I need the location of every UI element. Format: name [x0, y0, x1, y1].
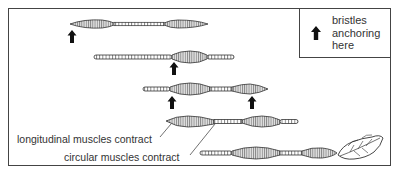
- worm-stage-4: [166, 116, 298, 127]
- label-circular: circular muscles contract: [64, 151, 180, 163]
- leader-longitudinal: [160, 124, 171, 137]
- worm-stage-3: [143, 83, 268, 109]
- up-arrow-icon: [168, 96, 177, 109]
- legend-line-2: anchoring: [332, 27, 380, 39]
- label-longitudinal: longitudinal muscles contract: [17, 133, 152, 145]
- up-arrow-icon: [68, 30, 77, 43]
- up-arrow-icon: [248, 96, 257, 109]
- legend-line-1: bristles: [332, 14, 367, 26]
- worm-locomotion-diagram: bristles anchoring here: [0, 0, 397, 173]
- leader-circular: [190, 124, 215, 155]
- worm-stage-2: [94, 51, 234, 75]
- leaf-icon: [338, 135, 383, 159]
- up-arrow-icon: [170, 62, 179, 75]
- worm-stage-5: [200, 147, 337, 159]
- legend-line-3: here: [332, 39, 354, 51]
- legend: bristles anchoring here: [300, 9, 391, 58]
- worm-stage-1: [68, 20, 209, 43]
